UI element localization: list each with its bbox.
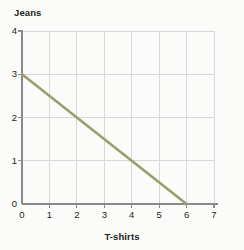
grid-lines	[22, 31, 214, 204]
y-tick-label: 1	[5, 155, 17, 166]
tick-marks	[18, 31, 214, 208]
x-tick-label: 4	[125, 209, 139, 220]
x-tick-label: 0	[15, 209, 29, 220]
x-tick-label: 3	[97, 209, 111, 220]
x-axis-title: T-shirts	[0, 231, 244, 242]
y-tick-label: 3	[5, 68, 17, 79]
x-tick-label: 1	[42, 209, 56, 220]
x-tick-label: 2	[70, 209, 84, 220]
x-tick-label: 6	[180, 209, 194, 220]
x-tick-label: 5	[152, 209, 166, 220]
x-tick-label: 7	[207, 209, 221, 220]
y-tick-label: 2	[5, 112, 17, 123]
y-tick-label: 0	[5, 198, 17, 209]
y-tick-label: 4	[5, 25, 17, 36]
chart-figure: Jeans 01234567 01234 T-shirts	[0, 0, 244, 250]
